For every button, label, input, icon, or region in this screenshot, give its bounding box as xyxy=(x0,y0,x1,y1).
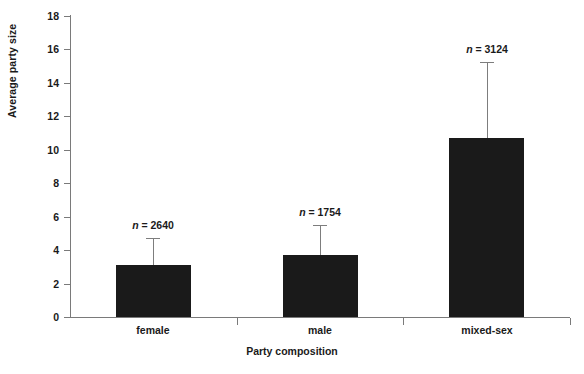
figure-caption-sliver xyxy=(8,362,308,374)
x-axis-tick-mark xyxy=(403,318,404,325)
x-axis-category-label: mixed-sex xyxy=(417,324,557,336)
sample-size-value: = 1754 xyxy=(306,206,341,218)
sample-size-value: = 2640 xyxy=(139,219,174,231)
y-axis-title: Average party size xyxy=(6,0,18,118)
y-axis-tick-label: 12 xyxy=(47,110,59,122)
x-axis-category-label: female xyxy=(83,324,223,336)
bar-female xyxy=(116,265,191,317)
y-axis-tick-mark xyxy=(64,183,70,184)
y-axis-tick-mark xyxy=(64,284,70,285)
error-bar-cap xyxy=(480,62,494,63)
y-axis-tick-mark xyxy=(64,83,70,84)
y-axis-tick-label: 4 xyxy=(53,244,59,256)
error-bar-stem xyxy=(487,62,488,138)
sample-size-value: = 3124 xyxy=(473,43,508,55)
y-axis-tick-mark xyxy=(64,150,70,151)
y-axis-tick-mark xyxy=(64,250,70,251)
y-axis-tick-mark xyxy=(64,116,70,117)
sample-size-label: n = 1754 xyxy=(260,206,380,218)
y-axis-tick-label: 16 xyxy=(47,43,59,55)
y-axis-tick-label: 10 xyxy=(47,144,59,156)
error-bar-cap xyxy=(313,225,327,226)
bar-chart: Average party size 181614121086420 n = 2… xyxy=(0,0,584,374)
x-axis-tick-mark xyxy=(237,318,238,325)
x-axis-category-label: male xyxy=(250,324,390,336)
y-axis-tick-label: 8 xyxy=(53,177,59,189)
x-axis-end-tick xyxy=(570,318,571,325)
error-bar-stem xyxy=(153,238,154,265)
sample-size-label: n = 2640 xyxy=(93,219,213,231)
y-axis-tick-label: 18 xyxy=(47,10,59,22)
y-axis-tick-mark xyxy=(64,317,70,318)
y-axis-tick-label: 14 xyxy=(47,77,59,89)
x-axis-line xyxy=(70,317,570,318)
x-axis-title: Party composition xyxy=(0,345,584,357)
y-axis-tick-label: 6 xyxy=(53,211,59,223)
y-axis-line xyxy=(70,15,71,318)
bar-mixed-sex xyxy=(449,138,524,317)
y-axis-tick-label: 2 xyxy=(53,278,59,290)
y-axis-tick-mark xyxy=(64,49,70,50)
y-axis-tick-mark xyxy=(64,217,70,218)
sample-size-label: n = 3124 xyxy=(427,43,547,55)
bar-male xyxy=(283,255,358,317)
y-axis-tick-mark xyxy=(64,16,70,17)
y-axis-tick-label: 0 xyxy=(53,311,59,323)
error-bar-stem xyxy=(320,225,321,255)
error-bar-cap xyxy=(146,238,160,239)
